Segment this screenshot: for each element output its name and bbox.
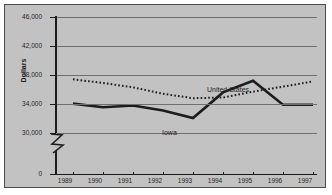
x-tick-mark-1991	[133, 172, 134, 175]
series-label-united-states: United States	[207, 86, 249, 93]
gridline-42000	[57, 46, 317, 47]
x-tick-label-1990: 1990	[78, 178, 112, 185]
x-tick-label-1991: 1991	[108, 178, 142, 185]
x-tick-mark-1997	[313, 172, 314, 175]
x-tick-mark-1994	[223, 172, 224, 175]
plot-area: United States Iowa	[57, 15, 317, 167]
x-tick-label-1993: 1993	[168, 178, 202, 185]
x-tick-mark-1992	[163, 172, 164, 175]
y-tick-mark-46000	[50, 17, 56, 18]
y-tick-mark-30000	[50, 133, 56, 134]
gridline-46000	[57, 17, 317, 18]
x-tick-mark-1996	[283, 172, 284, 175]
x-tick-label-1992: 1992	[138, 178, 172, 185]
axis-break-icon	[48, 132, 66, 154]
y-tick-mark-0	[50, 174, 56, 175]
series-canvas	[57, 15, 317, 167]
gridline-30000	[57, 133, 317, 134]
y-tick-mark-34000	[50, 104, 56, 105]
y-tick-mark-42000	[50, 46, 56, 47]
chart-title-clipped: Median Household Income (1989-1997)	[0, 0, 332, 2]
gridline-38000	[57, 75, 317, 76]
x-tick-label-1995: 1995	[228, 178, 262, 185]
x-tick-label-1996: 1996	[258, 178, 292, 185]
series-label-iowa: Iowa	[162, 129, 177, 136]
series-line-united-states	[73, 79, 313, 98]
series-line-iowa	[73, 81, 313, 118]
x-tick-mark-1993	[193, 172, 194, 175]
y-tick-label-30000: 30,000	[4, 130, 42, 137]
x-tick-label-1997: 1997	[288, 178, 322, 185]
x-axis-spine	[56, 174, 317, 175]
y-axis-spine-lower	[55, 151, 57, 175]
x-tick-mark-1995	[253, 172, 254, 175]
y-tick-label-46000: 46,000	[4, 14, 42, 21]
y-tick-mark-38000	[50, 75, 56, 76]
chart-figure: United States Iowa 46,000 42,000 38,000 …	[4, 4, 326, 188]
gridline-34000	[57, 104, 317, 105]
x-tick-label-1994: 1994	[198, 178, 232, 185]
y-axis-title: Dollars	[20, 41, 27, 101]
y-tick-label-34000: 34,000	[4, 101, 42, 108]
x-tick-mark-1990	[103, 172, 104, 175]
x-tick-mark-1989	[73, 172, 74, 175]
x-tick-label-1989: 1989	[48, 178, 82, 185]
y-tick-label-0: 0	[4, 171, 42, 178]
